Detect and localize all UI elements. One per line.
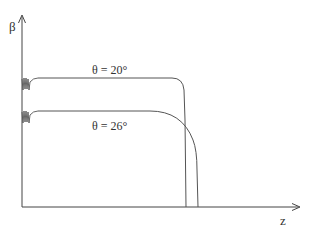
x-axis-label: z <box>280 214 286 227</box>
oscillation-wiggle <box>22 78 38 90</box>
curve-label-theta-26: θ = 26° <box>92 120 127 132</box>
curve-line <box>38 78 186 207</box>
curve-label-theta-20: θ = 20° <box>92 64 127 76</box>
diagram-canvas <box>0 0 319 233</box>
curve-theta-20 <box>22 78 186 207</box>
y-axis-label: β <box>9 20 16 33</box>
oscillation-wiggle <box>22 111 38 123</box>
